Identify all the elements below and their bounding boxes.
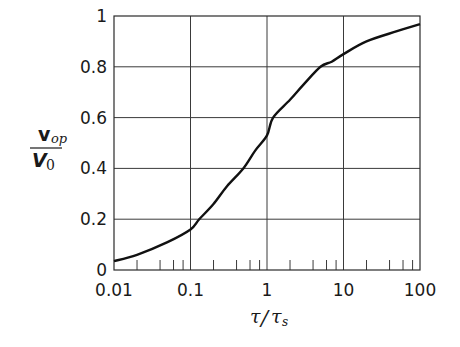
minor-ticks	[137, 260, 413, 270]
y-tick-label: 0.6	[80, 108, 107, 128]
x-axis-label: τ / τ s	[250, 305, 288, 330]
chart: 00.20.40.60.81 0.010.1110100 v op V 0 τ …	[0, 0, 460, 347]
x-tick-label: 100	[404, 280, 436, 300]
x-tick-label: 1	[262, 280, 273, 300]
y-tick-label: 0.8	[80, 57, 107, 77]
x-tick-label: 0.01	[95, 280, 133, 300]
x-tick-label: 0.1	[177, 280, 204, 300]
x-label-slash: /	[259, 306, 270, 330]
x-label-denominator: τ	[271, 305, 282, 327]
x-tick-labels: 0.010.1110100	[95, 280, 436, 300]
y-tick-label: 1	[96, 6, 107, 26]
y-label-denominator-sub: 0	[46, 157, 55, 173]
grid-lines	[114, 16, 420, 270]
y-axis-label: v op V 0	[30, 123, 68, 173]
y-tick-label: 0	[96, 260, 107, 280]
y-tick-labels: 00.20.40.60.81	[80, 6, 107, 280]
y-tick-label: 0.4	[80, 158, 107, 178]
y-label-numerator: v	[38, 123, 51, 145]
y-tick-label: 0.2	[80, 209, 107, 229]
x-label-numerator: τ	[250, 305, 261, 327]
x-label-denominator-sub: s	[282, 315, 288, 329]
y-label-numerator-sub: op	[51, 131, 68, 146]
x-tick-label: 10	[333, 280, 355, 300]
